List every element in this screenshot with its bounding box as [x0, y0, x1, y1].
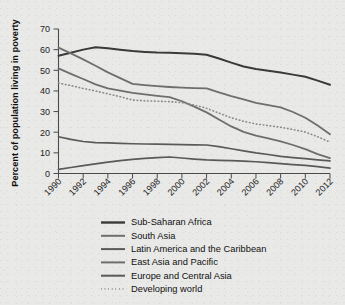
y-tick-label: 40: [40, 86, 50, 96]
y-tick-label: 0: [45, 169, 50, 179]
y-tick-label: 20: [40, 128, 50, 138]
y-axis-title: Percent of population living in poverty: [10, 18, 20, 186]
legend-item-label: Latin America and the Caribbean: [131, 244, 266, 254]
y-tick-label: 60: [40, 45, 50, 55]
legend-item-label: East Asia and Pacific: [131, 257, 218, 267]
y-tick-label: 50: [40, 66, 50, 76]
y-tick-label: 70: [40, 24, 50, 34]
legend-item-label: South Asia: [131, 231, 176, 241]
poverty-line-chart: Percent of population living in poverty …: [0, 0, 345, 305]
legend-item-label: Europe and Central Asia: [131, 271, 233, 281]
legend-item-label: Sub-Saharan Africa: [131, 217, 212, 227]
y-tick-label: 30: [40, 107, 50, 117]
y-tick-label: 10: [40, 148, 50, 158]
legend-item-label: Developing world: [131, 284, 202, 294]
